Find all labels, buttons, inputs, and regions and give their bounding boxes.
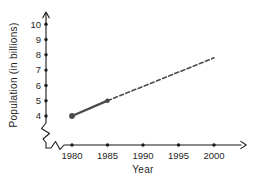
y-tick-label: 6 [36, 80, 41, 91]
x-tick-dot [106, 143, 109, 146]
y-tick-dot [44, 38, 47, 41]
chart-canvas: 4567891019801985199019952000 [0, 0, 253, 183]
x-tick-dot [212, 143, 215, 146]
y-tick-label: 5 [36, 95, 41, 106]
y-tick-label: 8 [36, 49, 41, 60]
y-tick-dot [44, 84, 47, 87]
x-tick-label: 1985 [97, 150, 118, 161]
y-tick-dot [44, 23, 47, 26]
population-growth-chart: 4567891019801985199019952000 Population … [0, 0, 253, 183]
x-tick-label: 1980 [61, 150, 82, 161]
series-projected-population [108, 58, 215, 101]
data-point-marker [69, 113, 75, 119]
y-tick-label: 7 [36, 64, 41, 75]
y-tick-dot [44, 114, 47, 117]
y-axis-title: Population (in billions) [8, 22, 19, 127]
y-tick-label: 10 [30, 19, 41, 30]
x-tick-dot [141, 143, 144, 146]
x-axis-arrow-icon [241, 141, 246, 148]
y-tick-dot [44, 99, 47, 102]
y-tick-dot [44, 68, 47, 71]
y-tick-label: 4 [36, 110, 41, 121]
x-tick-label: 1995 [168, 150, 189, 161]
x-tick-label: 1990 [132, 150, 153, 161]
y-tick-dot [44, 53, 47, 56]
series-observed-population [72, 101, 108, 116]
x-axis-title: Year [132, 164, 153, 175]
axis-lines-with-break [42, 14, 242, 150]
y-tick-label: 9 [36, 34, 41, 45]
x-tick-label: 2000 [203, 150, 224, 161]
x-tick-dot [177, 143, 180, 146]
x-tick-dot [70, 143, 73, 146]
